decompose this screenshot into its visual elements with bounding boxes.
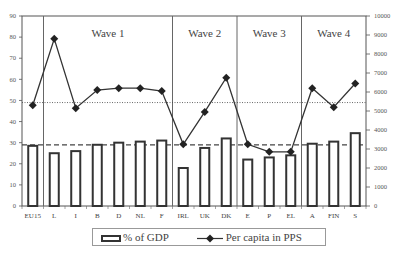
line-diamond-swatch-icon	[197, 234, 223, 243]
diamond-marker-icon	[244, 140, 252, 148]
category-label: D	[116, 212, 121, 220]
bar-swatch-icon	[101, 235, 121, 242]
category-label: B	[95, 212, 100, 220]
category-label: A	[310, 212, 315, 220]
category-label: EL	[286, 212, 295, 220]
pps-line	[33, 39, 356, 152]
diamond-marker-icon	[158, 87, 166, 95]
diamond-marker-icon	[115, 84, 123, 92]
bar-D	[114, 143, 123, 206]
category-label: NL	[136, 212, 145, 220]
category-label: P	[267, 212, 271, 220]
left-axis-tick-label: 30	[10, 139, 17, 146]
right-axis-tick-label: 2000	[374, 164, 387, 171]
wave-label: Wave 2	[188, 27, 221, 39]
diamond-marker-icon	[222, 74, 230, 82]
right-axis-tick-label: 6000	[374, 88, 387, 95]
category-label: F	[160, 212, 164, 220]
diamond-marker-icon	[50, 35, 58, 43]
bar-DK	[222, 138, 231, 206]
category-label: EU15	[25, 212, 42, 220]
bar-S	[351, 133, 360, 206]
right-axis-tick-label: 1000	[374, 183, 387, 190]
bar-F	[157, 141, 166, 206]
right-axis-tick-label: 10000	[374, 12, 390, 19]
right-axis-tick-label: 8000	[374, 50, 387, 57]
bar-A	[308, 144, 317, 206]
right-axis-tick-label: 7000	[374, 69, 387, 76]
right-axis-tick-label: 3000	[374, 145, 387, 152]
diamond-marker-icon	[136, 84, 144, 92]
category-label: E	[246, 212, 250, 220]
category-label: DK	[221, 212, 231, 220]
legend-item-pps: Per capita in PPS	[197, 231, 302, 243]
bar-E	[243, 160, 252, 206]
left-axis-tick-label: 50	[10, 97, 17, 104]
right-axis-tick-label: 5000	[374, 107, 387, 114]
bar-EL	[286, 155, 295, 206]
bar-I	[71, 151, 80, 206]
chart: 0102030405060708090010002000300040005000…	[0, 0, 395, 257]
category-label: UK	[200, 212, 210, 220]
left-axis-tick-label: 40	[10, 118, 17, 125]
left-axis-tick-label: 20	[10, 160, 17, 167]
bar-P	[265, 157, 274, 206]
diamond-marker-icon	[179, 140, 187, 148]
right-axis-tick-label: 0	[374, 202, 377, 209]
bar-IRL	[179, 168, 188, 206]
category-label: IRL	[178, 212, 189, 220]
left-axis-tick-label: 80	[10, 33, 17, 40]
legend: % of GDP Per capita in PPS	[92, 228, 326, 246]
bar-FIN	[329, 142, 338, 206]
right-axis-tick-label: 4000	[374, 126, 387, 133]
wave-label: Wave 3	[253, 27, 287, 39]
wave-label: Wave 1	[91, 27, 124, 39]
left-axis-tick-label: 70	[10, 54, 17, 61]
category-label: I	[75, 212, 78, 220]
diamond-marker-icon	[265, 148, 273, 156]
bar-B	[93, 145, 102, 206]
legend-item-gdp: % of GDP	[101, 231, 169, 243]
bar-UK	[200, 148, 209, 206]
category-label: S	[353, 212, 357, 220]
left-axis-tick-label: 0	[13, 202, 16, 209]
category-label: L	[52, 212, 56, 220]
bar-EU15	[28, 146, 37, 206]
left-axis-tick-label: 60	[10, 76, 17, 83]
bar-NL	[136, 142, 145, 206]
category-label: FIN	[328, 212, 339, 220]
right-axis-tick-label: 9000	[374, 31, 387, 38]
diamond-marker-icon	[201, 108, 209, 116]
left-axis-tick-label: 90	[10, 12, 17, 19]
left-axis-tick-label: 10	[10, 181, 17, 188]
wave-label: Wave 4	[317, 27, 351, 39]
bar-L	[50, 153, 59, 206]
